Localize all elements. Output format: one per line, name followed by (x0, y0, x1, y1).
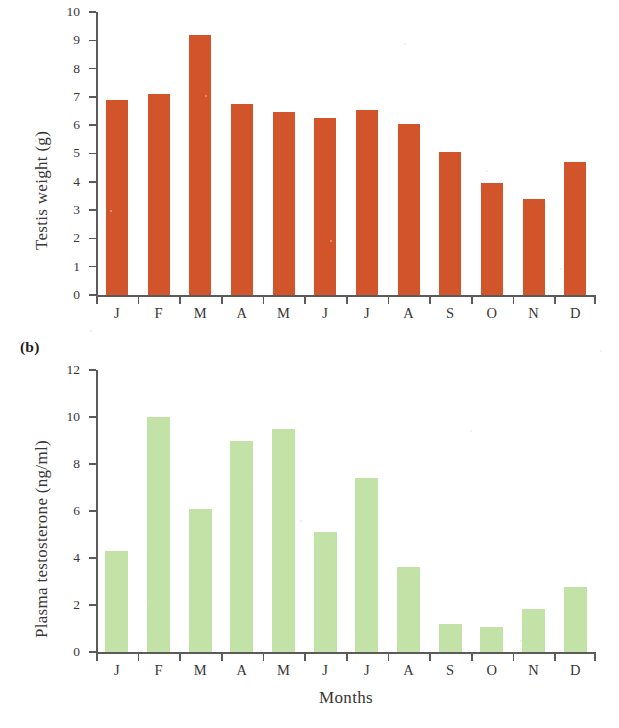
x-axis-title: Months (96, 688, 596, 708)
y-axis-tick-label-b: 10 (67, 409, 81, 425)
x-axis-tick-b (304, 654, 306, 661)
y-axis-line-b (96, 370, 98, 654)
y-axis-tick-a: 2 (89, 238, 96, 240)
x-axis-tick-label-a: J (364, 305, 370, 322)
y-axis-tick-a: 4 (89, 181, 96, 183)
x-axis-tick-b (594, 654, 596, 661)
y-axis-tick-label-a: 5 (73, 145, 80, 161)
y-axis-line-a (96, 12, 98, 297)
y-axis-tick-b: 0 (89, 651, 96, 653)
bar (439, 624, 462, 652)
x-axis-tick-label-a: N (528, 305, 538, 322)
x-axis-tick-b (221, 654, 223, 661)
x-axis-tick-a (304, 297, 306, 304)
y-axis-tick-b: 10 (89, 416, 96, 418)
y-axis-tick-a: 0 (89, 294, 96, 296)
panel-b-letter: (b) (20, 338, 40, 356)
x-axis-tick-label-a: J (322, 305, 328, 322)
y-axis-title-b: Plasma testosterone (ng/ml) (32, 440, 52, 638)
x-axis-tick-label-a: J (114, 305, 120, 322)
x-axis-tick-a (594, 297, 596, 304)
y-axis-tick-label-a: 7 (73, 89, 80, 105)
x-axis-tick-label-b: A (237, 662, 247, 679)
x-axis-tick-label-a: M (277, 305, 290, 322)
x-axis-tick-b (179, 654, 181, 661)
bar (397, 567, 420, 652)
y-axis-tick-label-b: 0 (73, 644, 80, 660)
panel-a: Testis weight (g) 012345678910JFMAMJJASO… (0, 0, 619, 330)
x-axis-tick-b (471, 654, 473, 661)
x-axis-tick-b (388, 654, 390, 661)
bar (106, 100, 128, 295)
y-axis-tick-a: 8 (89, 68, 96, 70)
x-axis-tick-b (346, 654, 348, 661)
x-axis-tick-b (429, 654, 431, 661)
x-axis-tick-label-b: D (570, 662, 580, 679)
y-axis-tick-a: 5 (89, 153, 96, 155)
y-axis-tick-label-b: 8 (73, 456, 80, 472)
y-axis-tick-label-b: 4 (73, 550, 80, 566)
x-axis-tick-a (96, 297, 98, 304)
x-axis-tick-a (429, 297, 431, 304)
x-axis-tick-a (346, 297, 348, 304)
x-axis-tick-label-b: O (487, 662, 497, 679)
panel-b: (b) Plasma testosterone (ng/ml) 02468101… (0, 330, 619, 728)
y-axis-tick-label-b: 2 (73, 597, 80, 613)
y-axis-title-a: Testis weight (g) (32, 131, 52, 250)
x-axis-tick-label-a: S (446, 305, 454, 322)
x-axis-tick-label-a: A (237, 305, 247, 322)
bar (231, 104, 253, 295)
y-axis-tick-label-a: 10 (67, 4, 81, 20)
bar (230, 441, 253, 653)
x-axis-tick-a (263, 297, 265, 304)
bar (189, 509, 212, 652)
bar (189, 35, 211, 295)
y-axis-tick-b: 4 (89, 557, 96, 559)
x-axis-tick-label-b: M (194, 662, 207, 679)
y-axis-tick-b: 6 (89, 510, 96, 512)
y-axis-tick-a: 6 (89, 124, 96, 126)
y-axis-tick-a: 10 (89, 11, 96, 13)
bar (398, 124, 420, 295)
x-axis-tick-a (513, 297, 515, 304)
x-axis-tick-label-b: N (528, 662, 538, 679)
bar (523, 199, 545, 295)
bar (481, 183, 503, 295)
figure-container: Testis weight (g) 012345678910JFMAMJJASO… (0, 0, 619, 728)
y-axis-tick-label-a: 4 (73, 174, 80, 190)
bar (522, 609, 545, 652)
y-axis-tick-label-b: 6 (73, 503, 80, 519)
bar (439, 152, 461, 295)
x-axis-tick-label-a: M (194, 305, 207, 322)
x-axis-tick-b (263, 654, 265, 661)
bar (272, 429, 295, 652)
bar (314, 118, 336, 295)
x-axis-tick-a (471, 297, 473, 304)
y-axis-tick-b: 2 (89, 604, 96, 606)
bar (148, 94, 170, 295)
x-axis-tick-a (138, 297, 140, 304)
x-axis-tick-label-a: D (570, 305, 580, 322)
bar (564, 587, 587, 652)
x-axis-tick-label-b: A (403, 662, 413, 679)
x-axis-tick-b (513, 654, 515, 661)
x-axis-tick-a (554, 297, 556, 304)
x-axis-tick-b (554, 654, 556, 661)
x-axis-tick-label-b: J (114, 662, 120, 679)
x-axis-tick-label-b: J (364, 662, 370, 679)
bar (147, 417, 170, 652)
bar (314, 532, 337, 652)
x-axis-tick-label-a: A (403, 305, 413, 322)
x-axis-tick-a (388, 297, 390, 304)
bar (480, 627, 503, 652)
y-axis-tick-label-a: 6 (73, 117, 80, 133)
y-axis-tick-a: 7 (89, 96, 96, 98)
y-axis-tick-a: 1 (89, 266, 96, 268)
x-axis-tick-label-b: M (277, 662, 290, 679)
y-axis-tick-label-a: 0 (73, 287, 80, 303)
y-axis-tick-label-a: 8 (73, 61, 80, 77)
y-axis-tick-a: 3 (89, 209, 96, 211)
plot-area-a: 012345678910JFMAMJJASOND (96, 12, 596, 297)
x-axis-tick-a (179, 297, 181, 304)
bar (105, 551, 128, 652)
